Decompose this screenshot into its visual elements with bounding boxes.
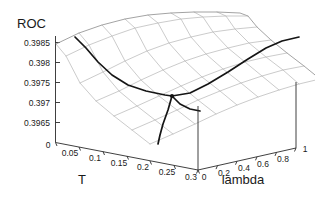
z-tick-label-0: 0.3965 [24,118,50,128]
z-tick-label-1: 0.397 [29,98,51,108]
mesh-line-T-3 [96,40,271,101]
z-tick-label-2: 0.3975 [24,78,50,88]
contour-saddle-node [170,94,174,98]
roc-surface-plot: ROC 0.3985 0.398 0.3975 0.397 0.3965 0 0… [0,0,315,198]
y-tick-label-0: 0 [202,172,207,182]
x-tick-mark-4 [150,161,152,165]
mesh-line-lambda-0 [56,44,150,144]
contour-line-main [75,37,299,96]
mesh-line-T-4 [114,53,287,116]
y-axis-title: lambda [222,172,265,187]
x-tick-label-4: 0.2 [137,162,149,172]
mesh-line-lambda-6 [194,12,279,90]
z-axis [56,36,61,143]
mesh-line-T-5 [132,66,304,130]
x-tick-label-5: 0.25 [159,167,176,177]
z-tick-label-3: 0.398 [29,58,51,68]
contour-line-drop [158,96,172,144]
x-axis-title: T [78,172,86,187]
y-tick-label-4: 0.8 [277,154,289,164]
mesh-line-lambda-8-edge [240,13,315,79]
z-tick-label-4: 0.3985 [24,38,50,48]
x-tick-label-3: 0.15 [111,158,128,168]
x-tick-label-1: 0.05 [62,148,79,158]
x-tick-label-6: 0.3 [185,172,197,182]
x-tick-label-0: 0 [46,140,51,150]
surface-mesh [56,12,315,144]
x-tick-label-2: 0.1 [89,153,101,163]
plot-canvas: ROC 0.3985 0.398 0.3975 0.397 0.3965 0 0… [0,0,315,198]
y-tick-label-3: 0.6 [257,159,269,169]
z-axis-title: ROC [17,16,46,31]
y-tick-label-5: 1 [303,144,308,154]
